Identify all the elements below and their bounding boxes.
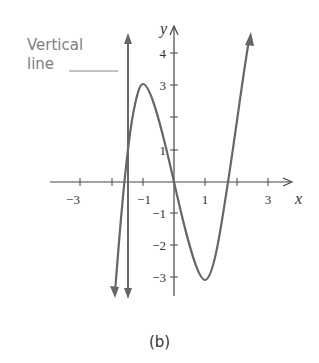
cubic-curve [110,32,254,298]
x-tick-label: −1 [137,192,151,207]
arrow-up-icon [124,33,132,44]
x-tick-label: 3 [265,192,272,207]
y-tick-label: −1 [152,206,166,221]
y-tick-label: 3 [160,78,167,93]
x-axis-label: x [294,190,302,207]
arrow-up-icon [245,32,254,46]
y-axis: 4 3 1 −1 −2 −3 y [152,20,178,296]
x-tick-label: −3 [66,192,80,207]
callout-line1: Vertical [27,36,83,55]
callout-line2: line [27,55,83,74]
arrow-down-icon [124,288,132,299]
figure-caption: (b) [0,333,319,351]
y-tick-label: −3 [152,270,166,285]
x-tick-label: 1 [202,192,209,207]
y-axis-label: y [158,20,168,38]
y-tick-label: −2 [152,238,166,253]
arrow-down-icon [110,286,119,298]
y-tick-label: 4 [160,46,167,61]
vertical-line-callout: Vertical line [27,36,83,74]
